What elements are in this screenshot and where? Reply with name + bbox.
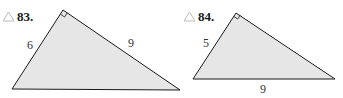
triangle-icon	[184, 12, 195, 21]
side-label-right: 9	[128, 36, 134, 50]
side-label-left: 5	[203, 36, 209, 50]
figure-canvas: 83. 6 9 84. 5 9	[0, 0, 343, 98]
problem-number: 84.	[198, 9, 214, 24]
triangle-icon	[3, 12, 14, 21]
problem-number: 83.	[17, 9, 33, 24]
problem-84: 84. 5 9	[184, 9, 335, 96]
right-triangle	[12, 10, 180, 90]
side-label-left: 6	[27, 38, 33, 52]
problem-83: 83. 6 9	[3, 9, 180, 90]
side-label-bottom: 9	[260, 82, 266, 96]
right-triangle	[193, 13, 335, 79]
